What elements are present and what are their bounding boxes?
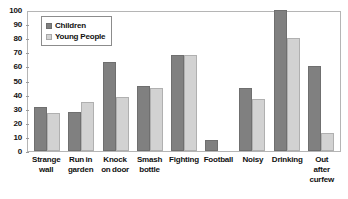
y-tick-mark bbox=[26, 25, 29, 26]
x-tick-label-line: Smash bbox=[132, 155, 166, 165]
bar-children bbox=[274, 10, 287, 151]
bar-group bbox=[133, 12, 167, 151]
bar-group bbox=[304, 12, 338, 151]
x-tick-label-line: Run in bbox=[63, 155, 97, 165]
x-tick-label: Fighting bbox=[167, 155, 201, 199]
bar-young-people bbox=[252, 99, 265, 151]
y-tick-mark bbox=[26, 96, 29, 97]
y-tick-mark bbox=[26, 124, 29, 125]
y-tick-label: 50 bbox=[14, 78, 23, 86]
y-tick-mark bbox=[26, 53, 29, 54]
y-tick-mark bbox=[26, 67, 29, 68]
bar-young-people bbox=[184, 55, 197, 151]
x-tick-label-line: Noisy bbox=[236, 155, 270, 165]
legend-item: Young People bbox=[46, 31, 105, 42]
bar-young-people bbox=[150, 88, 163, 151]
bar-group bbox=[270, 12, 304, 151]
y-tick-label: 70 bbox=[14, 49, 23, 57]
bar-group bbox=[235, 12, 269, 151]
bar-children bbox=[34, 107, 47, 151]
x-tick-label-line: bottle bbox=[132, 165, 166, 175]
bar-children bbox=[68, 112, 81, 151]
bar-young-people bbox=[81, 102, 94, 151]
legend: ChildrenYoung People bbox=[41, 16, 112, 46]
y-tick-mark bbox=[26, 82, 29, 83]
bar-young-people bbox=[321, 133, 334, 151]
x-tick-label-line: Out bbox=[305, 155, 339, 165]
x-tick-label-line: garden bbox=[63, 165, 97, 175]
y-tick-label: 0 bbox=[18, 148, 22, 156]
legend-label: Young People bbox=[55, 32, 105, 41]
y-tick-label: 20 bbox=[14, 120, 23, 128]
y-tick-mark bbox=[26, 39, 29, 40]
y-tick-label: 40 bbox=[14, 92, 23, 100]
legend-label: Children bbox=[55, 21, 86, 30]
x-tick-label-line: Drinking bbox=[270, 155, 304, 165]
bar-group bbox=[167, 12, 201, 151]
y-tick-mark bbox=[26, 138, 29, 139]
y-tick-mark bbox=[26, 152, 29, 153]
y-axis: 0102030405060708090100 bbox=[0, 0, 24, 160]
bar-young-people bbox=[47, 113, 60, 151]
x-tick-label: Smashbottle bbox=[132, 155, 166, 199]
x-tick-label-line: Knock bbox=[98, 155, 132, 165]
bar-group bbox=[201, 12, 235, 151]
bar-children bbox=[308, 66, 321, 151]
bar-children bbox=[205, 140, 218, 151]
legend-swatch-icon bbox=[46, 34, 52, 40]
legend-swatch-icon bbox=[46, 23, 52, 29]
x-tick-label: Football bbox=[201, 155, 235, 199]
bar-young-people bbox=[287, 38, 300, 151]
x-tick-label-line: wall bbox=[29, 165, 63, 175]
x-tick-label-line: curfew bbox=[305, 175, 339, 185]
x-tick-label-line: Football bbox=[201, 155, 235, 165]
x-tick-label: Knockon door bbox=[98, 155, 132, 199]
x-tick-label: Strangewall bbox=[29, 155, 63, 199]
x-axis: StrangewallRun ingardenKnockon doorSmash… bbox=[27, 155, 341, 199]
y-tick-label: 90 bbox=[14, 21, 23, 29]
x-tick-label: Outaftercurfew bbox=[305, 155, 339, 199]
x-tick-label: Drinking bbox=[270, 155, 304, 199]
bar-young-people bbox=[116, 97, 129, 151]
y-tick-label: 30 bbox=[14, 106, 23, 114]
y-tick-label: 100 bbox=[9, 7, 22, 15]
y-tick-label: 80 bbox=[14, 35, 23, 43]
x-tick-label: Run ingarden bbox=[63, 155, 97, 199]
x-tick-label-line: Fighting bbox=[167, 155, 201, 165]
x-tick-label: Noisy bbox=[236, 155, 270, 199]
x-tick-label-line: on door bbox=[98, 165, 132, 175]
x-tick-label-line: after bbox=[305, 165, 339, 175]
bar-children bbox=[171, 55, 184, 151]
x-tick-label-line: Strange bbox=[29, 155, 63, 165]
y-tick-label: 10 bbox=[14, 134, 23, 142]
bar-children bbox=[137, 86, 150, 151]
bar-chart: 0102030405060708090100 ChildrenYoung Peo… bbox=[0, 0, 348, 199]
bar-children bbox=[239, 88, 252, 151]
y-tick-mark bbox=[26, 110, 29, 111]
y-tick-label: 60 bbox=[14, 63, 23, 71]
bar-children bbox=[103, 62, 116, 151]
legend-item: Children bbox=[46, 20, 105, 31]
